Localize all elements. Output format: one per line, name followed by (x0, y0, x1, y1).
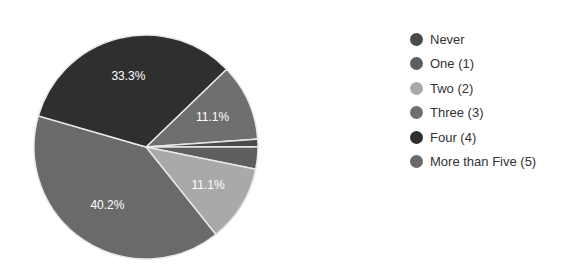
legend-label: Never (430, 32, 465, 47)
legend-label: Three (3) (430, 105, 483, 120)
legend-item-two: Two (2) (410, 76, 536, 101)
legend-label: Two (2) (430, 81, 473, 96)
pie-chart: 11.1%11.1%40.2%33.3% (0, 0, 300, 277)
legend-item-one: One (1) (410, 52, 536, 77)
slice-data-label: 11.1% (192, 178, 225, 192)
slice-data-label: 33.3% (111, 69, 145, 83)
legend-label: Four (4) (430, 130, 476, 145)
legend-item-more-than-five: More than Five (5) (410, 150, 536, 175)
legend-swatch-icon (410, 155, 423, 168)
legend-swatch-icon (410, 131, 423, 144)
legend-swatch-icon (410, 57, 423, 70)
legend-swatch-icon (410, 106, 423, 119)
slice-data-label: 40.2% (90, 198, 124, 212)
legend-label: More than Five (5) (430, 154, 536, 169)
slice-data-label: 11.1% (196, 110, 229, 124)
legend-item-never: Never (410, 27, 536, 52)
legend-item-three: Three (3) (410, 101, 536, 126)
legend-item-four: Four (4) (410, 125, 536, 150)
legend-swatch-icon (410, 82, 423, 95)
legend-swatch-icon (410, 33, 423, 46)
legend: Never One (1) Two (2) Three (3) Four (4)… (410, 27, 536, 174)
legend-label: One (1) (430, 56, 474, 71)
